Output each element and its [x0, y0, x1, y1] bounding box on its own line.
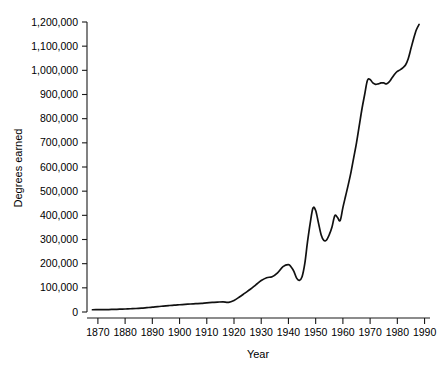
- y-axis-tick-labels: 0100,000200,000300,000400,000500,000600,…: [31, 16, 78, 318]
- y-tick-label: 500,000: [40, 185, 78, 197]
- x-tick-label: 1990: [413, 326, 437, 338]
- x-tick-label: 1910: [195, 326, 219, 338]
- x-axis-tick-labels: 1870188018901900191019201930194019501960…: [86, 326, 436, 338]
- y-tick-label: 400,000: [40, 209, 78, 221]
- y-tick-label: 300,000: [40, 233, 78, 245]
- x-tick-label: 1920: [222, 326, 246, 338]
- x-tick-label: 1970: [358, 326, 382, 338]
- x-tick-label: 1870: [86, 326, 110, 338]
- y-tick-label: 900,000: [40, 88, 78, 100]
- x-tick-label: 1890: [141, 326, 165, 338]
- x-tick-label: 1960: [331, 326, 355, 338]
- degrees-earned-line-chart: 0100,000200,000300,000400,000500,000600,…: [0, 0, 445, 369]
- data-series-line: [92, 24, 419, 309]
- x-axis-title: Year: [247, 348, 270, 360]
- x-tick-label: 1940: [277, 326, 301, 338]
- y-axis-tick-marks: [82, 22, 87, 312]
- y-tick-label: 800,000: [40, 112, 78, 124]
- y-tick-label: 200,000: [40, 257, 78, 269]
- y-tick-label: 700,000: [40, 136, 78, 148]
- y-axis-title: Degrees earned: [12, 129, 24, 208]
- x-tick-label: 1900: [168, 326, 192, 338]
- x-tick-label: 1950: [304, 326, 328, 338]
- y-tick-label: 1,200,000: [31, 16, 78, 28]
- y-tick-label: 0: [72, 306, 78, 318]
- x-tick-label: 1880: [113, 326, 137, 338]
- y-tick-label: 1,100,000: [31, 40, 78, 52]
- x-tick-label: 1930: [250, 326, 274, 338]
- chart-canvas: 0100,000200,000300,000400,000500,000600,…: [0, 0, 445, 369]
- x-axis-tick-marks: [98, 318, 425, 324]
- y-tick-label: 600,000: [40, 161, 78, 173]
- y-tick-label: 100,000: [40, 281, 78, 293]
- x-tick-label: 1980: [386, 326, 410, 338]
- y-tick-label: 1,000,000: [31, 64, 78, 76]
